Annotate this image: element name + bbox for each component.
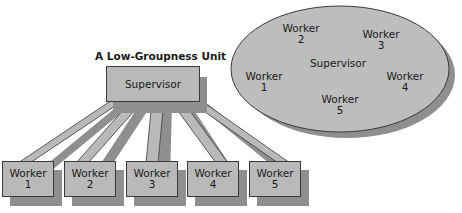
high-supervisor: Supervisor [310,58,366,69]
high-worker-2: Worker 2 [283,23,320,45]
high-worker-4: Worker 4 [387,71,424,93]
high-worker-3: Worker 3 [363,29,400,51]
high-worker-5: Worker 5 [322,94,359,116]
high-worker-1: Worker 1 [246,71,283,93]
